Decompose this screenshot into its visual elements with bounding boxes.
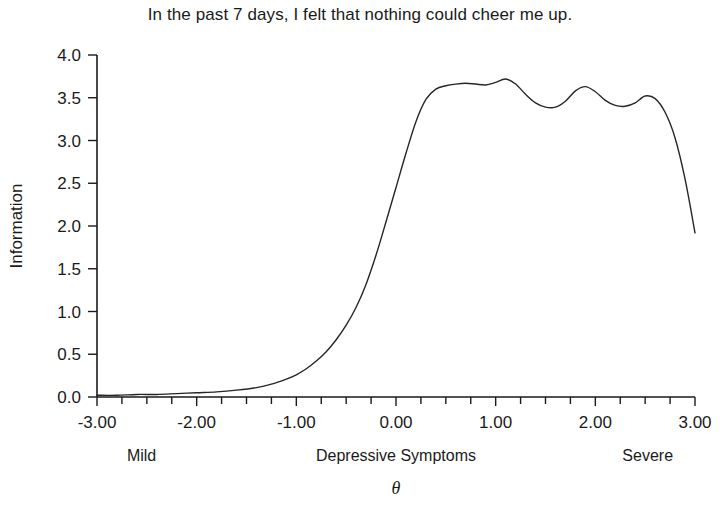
y-axis-tick-label: 0.0 xyxy=(57,388,81,407)
x-axis-anno-left-anchor: Mild xyxy=(127,447,156,464)
y-axis-tick-label: 1.0 xyxy=(57,303,81,322)
x-axis-tick-label: 0.00 xyxy=(379,413,412,432)
y-axis-tick-label: 3.5 xyxy=(57,89,81,108)
x-axis-tick-label: 2.00 xyxy=(579,413,612,432)
x-axis-anno-center-anchor: Depressive Symptoms xyxy=(316,447,476,464)
y-axis-tick-label: 1.5 xyxy=(57,260,81,279)
information-curve-plot: -3.00-2.00-1.000.001.002.003.000.00.51.0… xyxy=(0,0,720,511)
y-axis-tick-label: 3.0 xyxy=(57,132,81,151)
x-axis-tick-label: -3.00 xyxy=(78,413,117,432)
information-curve-line xyxy=(97,79,695,395)
chart-figure: In the past 7 days, I felt that nothing … xyxy=(0,0,720,511)
x-axis-anno-right-anchor: Severe xyxy=(622,447,673,464)
x-axis-tick-label: -1.00 xyxy=(277,413,316,432)
y-axis-tick-label: 0.5 xyxy=(57,345,81,364)
theta-symbol-label: θ xyxy=(392,478,401,498)
x-axis-tick-label: 1.00 xyxy=(479,413,512,432)
y-axis-tick-label: 4.0 xyxy=(57,46,81,65)
x-axis-tick-label: 3.00 xyxy=(678,413,711,432)
x-axis-tick-label: -2.00 xyxy=(177,413,216,432)
y-axis-tick-label: 2.5 xyxy=(57,174,81,193)
y-axis-title: Information xyxy=(7,183,26,268)
y-axis-tick-label: 2.0 xyxy=(57,217,81,236)
